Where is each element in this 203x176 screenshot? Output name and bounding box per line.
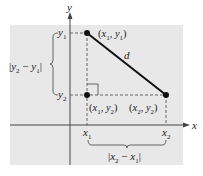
point-x1-y1 <box>84 30 90 36</box>
x-axis-arrow-icon <box>183 123 190 128</box>
distance-formula-diagram: x y d (x1, y1) (x1, y2) (x2, y2) y1 y2 x… <box>0 0 203 176</box>
y-axis-arrow-icon <box>68 12 73 19</box>
point-x2-y2 <box>163 92 169 98</box>
point-x1-y2 <box>84 92 90 98</box>
segment-d-label: d <box>124 49 130 61</box>
y-axis-label: y <box>66 1 72 13</box>
x-axis-label: x <box>191 119 197 131</box>
